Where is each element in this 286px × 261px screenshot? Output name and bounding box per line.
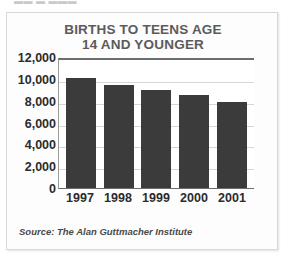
chart-figure-panel: BIRTHS TO TEENS AGE 14 AND YOUNGER BIRTH… (6, 12, 278, 250)
chart-title-line-2-text: 14 AND YOUNGER (7, 37, 279, 52)
y-axis-tick-label: 0 (7, 184, 56, 194)
x-axis-tick-label: 1997 (65, 191, 95, 205)
bar (141, 90, 171, 188)
y-axis-tick-label: 12,000 (7, 53, 56, 63)
bar (104, 85, 134, 188)
y-axis-tick-label: 4,000 (7, 140, 56, 150)
source-caption: Source: The Alan Guttmacher Institute (19, 226, 192, 237)
chart-title: BIRTHS TO TEENS AGE 14 AND YOUNGER BIRTH… (7, 22, 279, 52)
plot-area (58, 58, 254, 189)
x-axis-tick-label: 1998 (103, 191, 133, 205)
y-axis-tick-label: 6,000 (7, 119, 56, 129)
y-axis-tick-labels: 12,00010,0008,0006,0004,0002,0000 (7, 58, 56, 189)
x-axis-tick-label: 1999 (141, 191, 171, 205)
bar (66, 78, 96, 188)
bar-series (59, 60, 254, 188)
x-axis-tick-labels: 19971998199920002001 (58, 191, 254, 205)
bar (179, 95, 209, 188)
scan-edge-sliver: ▬▬ ▬ ▬▬▬ (0, 0, 286, 10)
y-axis-tick-label: 2,000 (7, 162, 56, 172)
plot-wrapper: 12,00010,0008,0006,0004,0002,0000 199719… (7, 58, 279, 203)
cut-off-text-fragment: ▬▬ ▬ ▬▬▬ (14, 0, 77, 6)
chart-title-line-1-text: BIRTHS TO TEENS AGE (64, 22, 222, 37)
x-axis-tick-label: 2001 (217, 191, 247, 205)
y-axis-tick-label: 8,000 (7, 97, 56, 107)
x-axis-tick-label: 2000 (179, 191, 209, 205)
bar (217, 102, 247, 188)
y-axis-tick-label: 10,000 (7, 75, 56, 85)
